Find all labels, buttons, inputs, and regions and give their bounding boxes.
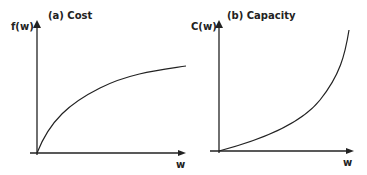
chart-a-cost: f(w) (a) Cost w [11,10,186,170]
figure: f(w) (a) Cost w C(w) (b) Capacity w [0,0,367,175]
capacity-curve [219,30,349,151]
chart-title: (a) Cost [48,10,93,21]
x-axis-label: w [343,157,352,168]
chart-title: (b) Capacity [227,10,296,21]
cost-curve [37,66,186,153]
y-axis-label: f(w) [11,21,34,32]
chart-b-capacity: C(w) (b) Capacity w [191,10,354,168]
y-axis-arrow-icon [33,20,41,28]
y-axis-label: C(w) [191,21,217,32]
x-axis-label: w [176,159,185,170]
x-axis-arrow-icon [178,150,186,156]
x-axis-arrow-icon [346,148,354,154]
